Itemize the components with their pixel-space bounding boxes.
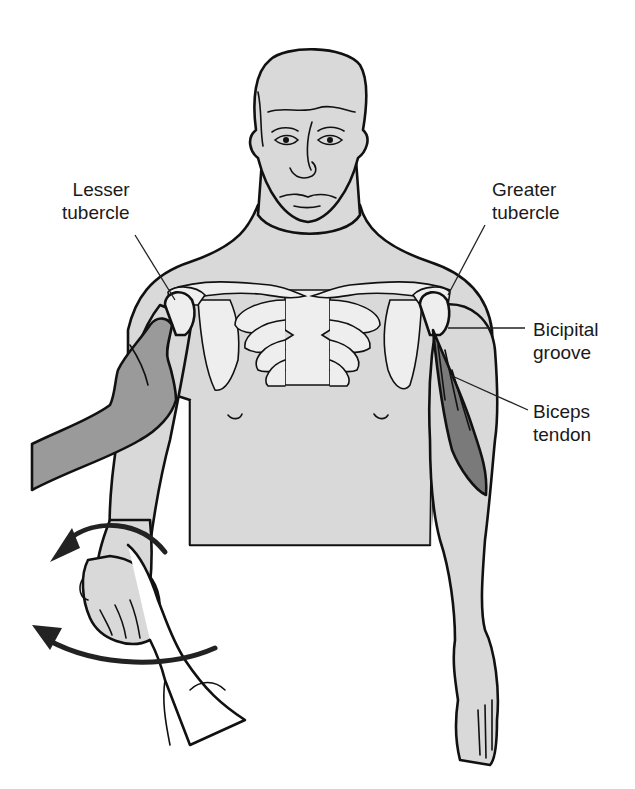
label-greater-tubercle: Greater tubercle — [492, 178, 560, 224]
anatomy-figure: .o { stroke:#111; stroke-width:2.6; stro… — [0, 0, 635, 789]
label-bicipital-groove: Bicipital groove — [533, 318, 598, 364]
head — [250, 49, 367, 233]
label-lesser-tubercle: Lesser tubercle — [62, 178, 130, 224]
illustration: .o { stroke:#111; stroke-width:2.6; stro… — [0, 0, 635, 789]
label-biceps-tendon: Biceps tendon — [533, 400, 591, 446]
examiner-wrist-hand — [128, 545, 245, 745]
